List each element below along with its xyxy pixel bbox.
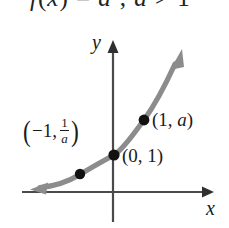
data-point-neg1 xyxy=(75,169,85,179)
x-axis-arrow-icon xyxy=(202,187,214,198)
right-paren-glyph: ) xyxy=(71,119,79,142)
graph-canvas xyxy=(0,0,229,228)
point-label-1-a-y: a xyxy=(177,109,187,130)
point-label-1-a: (1, a) xyxy=(152,110,193,129)
point-label-1-a-close: ) xyxy=(187,109,193,130)
fraction-numerator: 1 xyxy=(60,116,69,129)
fraction-one-over-a: 1 a xyxy=(60,116,69,146)
point-label-y-intercept: (0, 1) xyxy=(122,146,163,165)
point-label-neg1-x: −1, xyxy=(32,121,57,140)
left-paren-glyph: ( xyxy=(23,119,31,142)
y-axis-label: y xyxy=(92,32,101,52)
fraction-denominator: a xyxy=(60,132,69,145)
data-point-y-intercept xyxy=(108,149,119,160)
y-axis-arrow-icon xyxy=(108,40,119,53)
point-label-neg1: ( −1, 1 a ) xyxy=(22,116,80,146)
data-point-1-a xyxy=(139,115,150,126)
point-label-1-a-x: 1, xyxy=(158,109,177,130)
curve-right-arrow-icon xyxy=(170,49,184,70)
x-axis-label: x xyxy=(206,198,215,218)
exponential-function-figure: f(x) = ax, a > 1 y x (0, 1) (1, a) ( −1, xyxy=(0,0,229,228)
